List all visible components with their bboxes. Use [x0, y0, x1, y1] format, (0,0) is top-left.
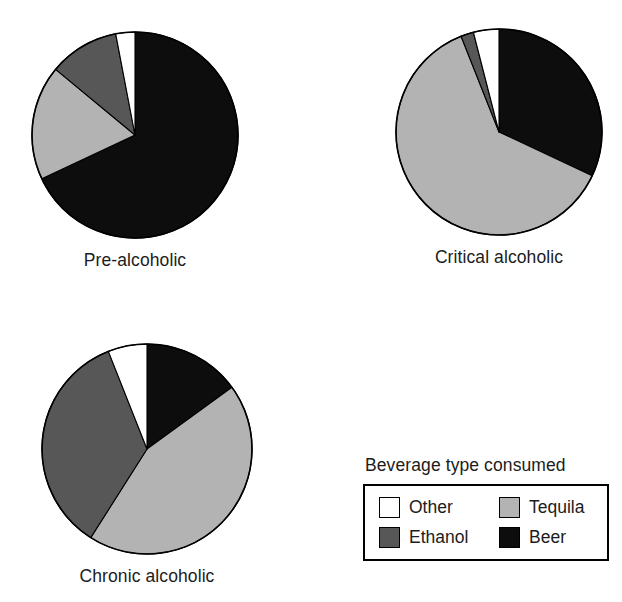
pie-caption-pre-alcoholic: Pre-alcoholic [28, 250, 242, 271]
legend-row: Ethanol Beer [379, 527, 595, 548]
pie-svg-pre-alcoholic [28, 28, 242, 242]
pie-chart-figure: Pre-alcoholic Critical alcoholic Chronic… [0, 0, 622, 602]
legend-title: Beverage type consumed [365, 455, 611, 476]
legend-entry-other: Other [379, 497, 499, 518]
legend-entry-tequila: Tequila [499, 497, 609, 518]
legend-swatch-tequila-icon [499, 497, 520, 518]
pie-svg-critical-alcoholic [392, 25, 606, 239]
legend-entry-ethanol: Ethanol [379, 527, 499, 548]
legend-row: Other Tequila [379, 497, 595, 518]
pie-chart-critical-alcoholic: Critical alcoholic [392, 25, 606, 239]
pie-chart-chronic-alcoholic: Chronic alcoholic [38, 340, 256, 558]
legend-label-ethanol: Ethanol [409, 529, 468, 547]
legend-entry-beer: Beer [499, 527, 609, 548]
legend-label-other: Other [409, 499, 453, 517]
legend-swatch-ethanol-icon [379, 527, 400, 548]
legend-swatch-other-icon [379, 497, 400, 518]
pie-caption-critical-alcoholic: Critical alcoholic [392, 247, 606, 268]
pie-caption-chronic-alcoholic: Chronic alcoholic [38, 566, 256, 587]
legend-swatch-beer-icon [499, 527, 520, 548]
legend-box: Other Tequila Ethanol Beer [363, 484, 609, 561]
legend-label-beer: Beer [529, 529, 566, 547]
pie-svg-chronic-alcoholic [38, 340, 256, 558]
legend: Beverage type consumed Other Tequila Eth… [363, 455, 611, 561]
legend-label-tequila: Tequila [529, 499, 584, 517]
pie-chart-pre-alcoholic: Pre-alcoholic [28, 28, 242, 242]
